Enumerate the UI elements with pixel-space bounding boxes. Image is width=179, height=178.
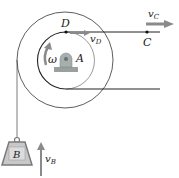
- bearing-A-icon: [54, 53, 78, 72]
- label-B: B: [12, 149, 20, 160]
- pulley-diagram: D C A ω B vD vC vB: [0, 0, 179, 178]
- point-D-dot: [64, 30, 67, 33]
- label-vB: vB: [45, 153, 56, 166]
- label-D: D: [60, 17, 70, 30]
- velocity-B-arrow: [37, 142, 45, 176]
- label-omega: ω: [48, 53, 57, 66]
- point-C-dot: [145, 30, 148, 33]
- label-vD: vD: [90, 33, 102, 46]
- label-vC: vC: [148, 8, 160, 21]
- velocity-D-arrow: [70, 30, 90, 36]
- label-C: C: [143, 36, 152, 49]
- velocity-C-arrow: [146, 20, 174, 28]
- label-A: A: [75, 52, 84, 65]
